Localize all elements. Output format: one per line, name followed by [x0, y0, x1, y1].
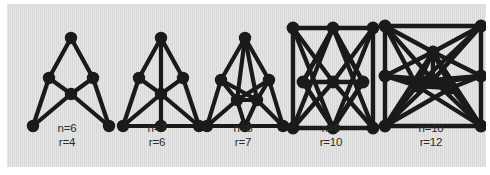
graph-vertex — [297, 76, 310, 89]
graph-vertex — [133, 72, 145, 84]
graph-vertex — [87, 72, 99, 84]
graph-5-vertex-count-label: n=10 — [373, 122, 486, 136]
graph-vertex — [155, 32, 167, 44]
graph-vertex — [445, 82, 458, 95]
graph-vertex — [251, 94, 263, 106]
graph-5-diagram — [375, 16, 486, 136]
graph-vertex — [379, 20, 392, 33]
figure-panel: n=6r=4n=7r=6n=6r=7n=9r=10n=10r=12 — [7, 4, 486, 167]
graph-vertex — [287, 22, 300, 35]
graph-edge — [71, 38, 93, 78]
graph-3-r-value-label: r=7 — [195, 136, 291, 150]
graph-1-vertex-count-label: n=6 — [17, 122, 117, 136]
graph-2-vertex-count-label: n=7 — [111, 122, 203, 136]
graph-edge — [49, 38, 71, 78]
graph-2-r-value-label: r=6 — [111, 136, 203, 150]
graph-2-label: n=7r=6 — [111, 122, 203, 149]
graph-4-diagram — [281, 18, 385, 138]
graph-edge — [139, 38, 161, 78]
graph-vertex — [327, 76, 340, 89]
graph-vertex — [231, 94, 243, 106]
graph-cell-4: n=9r=10 — [279, 4, 383, 167]
graph-cell-5: n=10r=12 — [373, 4, 486, 167]
graph-1-r-value-label: r=4 — [17, 136, 117, 150]
graph-vertex — [177, 72, 189, 84]
graph-vertex — [43, 72, 55, 84]
graph-vertex — [65, 88, 77, 100]
graph-4-r-value-label: r=10 — [279, 136, 383, 150]
graph-vertex — [327, 22, 340, 35]
graph-vertex — [263, 74, 275, 86]
graph-4-vertex-count-label: n=9 — [279, 122, 383, 136]
graph-vertex — [215, 74, 227, 86]
figure-root: n=6r=4n=7r=6n=6r=7n=9r=10n=10r=12 — [0, 0, 490, 175]
graph-vertex — [155, 88, 167, 100]
graph-4-label: n=9r=10 — [279, 122, 383, 149]
graph-cell-3: n=6r=7 — [195, 4, 291, 167]
graph-3-vertex-count-label: n=6 — [195, 122, 291, 136]
graph-1-label: n=6r=4 — [17, 122, 117, 149]
graph-cell-1: n=6r=4 — [17, 4, 117, 167]
graph-vertex — [65, 32, 77, 44]
graph-vertex — [239, 32, 251, 44]
graph-3-label: n=6r=7 — [195, 122, 291, 149]
graph-5-label: n=10r=12 — [373, 122, 486, 149]
graph-vertex — [427, 74, 440, 87]
graph-5-r-value-label: r=12 — [373, 136, 486, 150]
graph-vertex — [427, 46, 440, 59]
graph-vertex — [357, 76, 370, 89]
graph-cell-2: n=7r=6 — [111, 4, 203, 167]
graph-1-vertices — [27, 32, 115, 132]
graph-edge — [161, 38, 183, 78]
graph-vertex — [411, 80, 424, 93]
graph-vertex — [379, 70, 392, 83]
